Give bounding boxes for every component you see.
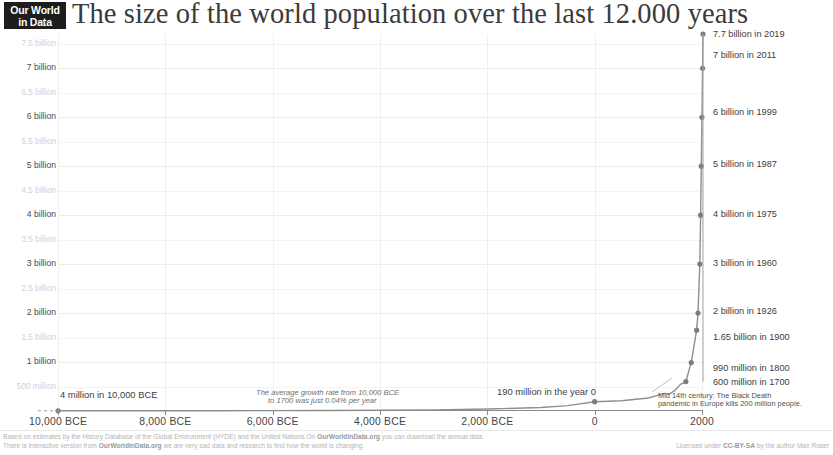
y-axis-tick-label: 1 billion [2,357,56,366]
footer-site-link[interactable]: OurWorldInData.org [317,433,380,440]
footer-line-2: There is interactive version from OurWor… [3,441,364,451]
y-axis-tick-label: 3.5 billion [2,235,56,244]
chart-annotation: pandemic in Europe kills 200 million peo… [658,399,802,408]
logo-line-1: Our World [10,4,59,16]
y-axis-tick-label: 5.5 billion [2,137,56,146]
chart-annotation: 990 million in 1800 [713,363,790,374]
footer-license: Licensed under CC-BY-SA by the author Ma… [676,441,829,451]
chart-annotation: to 1700 was just 0.04% per year [268,396,377,406]
footer-download-text: you can download the annual data. [380,433,484,440]
footer-source-text: Based on estimates by the History Databa… [3,433,306,440]
y-axis: 7.5 billion7 billion6.5 billion6 billion… [0,34,56,411]
footer-license-author: by the author Max Roser [755,442,829,449]
y-axis-tick-label: 5 billion [2,161,56,170]
our-world-in-data-logo[interactable]: Our World in Data [4,2,66,29]
data-point-marker[interactable] [700,31,705,36]
data-point-marker[interactable] [699,115,704,120]
x-axis-tick [487,411,488,415]
data-point-marker[interactable] [689,360,694,365]
y-axis-tick-label: 1.5 billion [2,333,56,342]
chart-annotation: 7 billion in 2011 [713,50,776,61]
chart-annotation: 3 billion in 1960 [713,258,777,269]
x-axis-tick-label: 4,000 BCE [354,416,406,427]
footer-on-text: On [306,433,317,440]
chart-annotation: 5 billion in 1987 [713,159,777,170]
y-axis-tick-label: 2 billion [2,308,56,317]
chart-annotation: 6 billion in 1999 [713,107,777,118]
chart-annotation: 7.7 billion in 2019 [713,29,785,40]
chart-header: Our World in Data The size of the world … [0,0,833,34]
x-axis-tick-label: 8,000 BCE [139,416,191,427]
x-axis-tick [58,411,59,415]
chart-annotation: 4 million in 10,000 BCE [60,389,157,400]
x-axis-tick-label: 6,000 BCE [247,416,299,427]
y-axis-tick-label: 4.5 billion [2,186,56,195]
chart-annotation: 1.65 billion in 1900 [713,332,790,343]
footer-site-link-2[interactable]: OurWorldInData.org [99,442,162,449]
data-point-marker[interactable] [700,66,705,71]
chart-annotation: 190 million in the year 0 [497,386,596,397]
y-axis-tick-label: 6.5 billion [2,88,56,97]
data-point-marker[interactable] [699,164,704,169]
footer-license-prefix: Licensed under [676,442,723,449]
x-axis-tick [702,411,703,415]
y-axis-tick-label: 7 billion [2,63,56,72]
x-axis-tick [380,411,381,415]
y-axis-tick-label: 500 million [2,382,56,391]
footer-research-text: we are very sad data and research to fin… [162,442,365,449]
y-axis-tick-label: 4 billion [2,210,56,219]
data-point-marker[interactable] [698,213,703,218]
chart-annotation: 600 million in 1700 [713,377,790,388]
chart-annotation: 4 billion in 1975 [713,209,777,220]
data-point-marker[interactable] [695,310,700,315]
population-line [58,34,703,411]
y-axis-tick-label: 7.5 billion [2,39,56,48]
data-point-markers [55,31,705,413]
x-axis-tick-label: 2,000 BCE [461,416,513,427]
y-axis-tick-label: 6 billion [2,112,56,121]
data-point-marker[interactable] [592,399,597,404]
y-axis-tick-label: 2.5 billion [2,284,56,293]
plot-area [58,34,703,411]
y-axis-tick-label: 3 billion [2,259,56,268]
chart-footer: Based on estimates by the History Databa… [0,432,833,455]
series-layer [58,34,703,411]
x-axis-tick [165,411,166,415]
x-axis-tick-label: 10,000 BCE [29,416,87,427]
logo-line-2: in Data [4,16,66,28]
footer-divider [0,430,833,431]
page-title: The size of the world population over th… [72,0,748,30]
footer-license-link[interactable]: CC-BY-SA [723,442,755,449]
data-point-marker[interactable] [683,379,688,384]
data-point-marker[interactable] [697,262,702,267]
x-axis-tick [595,411,596,415]
footer-interactive-text: There is interactive version from [3,442,99,449]
chart-annotation: 2 billion in 1926 [713,306,777,317]
x-axis-tick-label: 2000 [690,416,714,427]
data-point-marker[interactable] [694,328,699,333]
x-axis-tick [273,411,274,415]
x-axis-tick-label: 0 [592,416,598,427]
